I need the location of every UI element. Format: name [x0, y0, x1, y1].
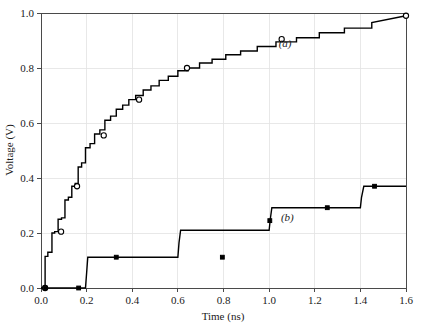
y-tick-label: 0.6 [20, 117, 34, 129]
chart-figure: 0.00.20.40.60.81.01.21.41.6 0.00.20.40.6… [0, 0, 428, 329]
data-marker-open [403, 13, 408, 18]
x-tick-label: 0.6 [171, 294, 185, 306]
x-tick-label: 1.4 [354, 294, 368, 306]
y-tick-label: 0.8 [20, 62, 34, 74]
x-axis-title: Time (ns) [202, 310, 245, 323]
x-tick-label: 0.2 [80, 294, 94, 306]
data-marker-open [184, 65, 189, 70]
data-marker-filled [77, 286, 81, 290]
data-marker-filled [220, 255, 224, 259]
x-tick-label: 1.6 [399, 294, 413, 306]
x-tick-label: 1.0 [262, 294, 276, 306]
data-marker-filled [373, 184, 377, 188]
x-tick-label: 0.8 [217, 294, 231, 306]
x-axis-ticks [41, 288, 406, 292]
y-tick-label: 0.0 [20, 282, 34, 294]
chart-canvas: 0.00.20.40.60.81.01.21.41.6 0.00.20.40.6… [0, 0, 428, 329]
gridlines-group [41, 13, 406, 288]
data-marker-open [58, 229, 63, 234]
y-axis-ticks [37, 13, 41, 288]
y-axis-tick-labels: 0.00.20.40.60.81.0 [20, 7, 34, 294]
curve-annotation: (b) [281, 211, 294, 224]
curve-annotations: (a)(b) [279, 37, 294, 223]
y-axis-title: Voltage (V) [3, 124, 16, 176]
x-tick-label: 0.0 [34, 294, 48, 306]
data-marker-filled [114, 255, 118, 259]
data-marker-filled [268, 219, 272, 223]
data-marker-open [101, 133, 106, 138]
data-marker-filled [325, 206, 329, 210]
data-marker-filled [43, 286, 47, 290]
data-marker-open [136, 97, 141, 102]
x-tick-label: 1.2 [308, 294, 322, 306]
y-tick-label: 1.0 [20, 7, 34, 19]
curve-annotation: (a) [279, 37, 292, 50]
y-tick-label: 0.2 [20, 227, 34, 239]
x-tick-label: 0.4 [125, 294, 139, 306]
x-axis-tick-labels: 0.00.20.40.60.81.01.21.41.6 [34, 294, 413, 306]
data-marker-open [74, 184, 79, 189]
y-tick-label: 0.4 [20, 172, 34, 184]
